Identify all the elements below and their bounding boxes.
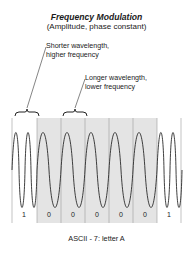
bracket-long-icon <box>63 109 87 116</box>
diagram-caption: ASCII - 7: letter A <box>0 234 193 243</box>
bit-label: 0 <box>133 211 157 218</box>
bracket-short-icon <box>15 109 39 116</box>
bit-label: 0 <box>37 211 61 218</box>
bit-label: 1 <box>157 211 181 218</box>
bit-label: 0 <box>85 211 109 218</box>
bit-label: 0 <box>109 211 133 218</box>
leader-line-long <box>75 79 85 108</box>
bit-label: 1 <box>12 211 36 218</box>
leader-line-short <box>27 47 46 108</box>
bit-label: 0 <box>61 211 85 218</box>
